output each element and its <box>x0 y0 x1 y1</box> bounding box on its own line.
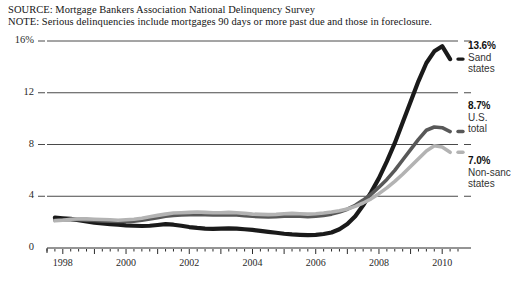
line-chart-plot <box>0 0 530 293</box>
callout-name-line1: U.S. <box>468 112 490 124</box>
y-tick-label: 8 <box>0 138 34 149</box>
callout-value: 13.6% <box>468 40 496 52</box>
callout-name-line2: states <box>468 178 511 190</box>
y-tick-label: 0 <box>0 241 34 252</box>
x-tick-label: 2006 <box>296 257 336 268</box>
x-tick-label: 1998 <box>43 257 83 268</box>
series-callout-sand-states: 13.6% Sand states <box>468 40 496 75</box>
x-tick-label: 2002 <box>169 257 209 268</box>
callout-name-line2: total <box>468 123 490 135</box>
series-callout-us-total: 8.7% U.S. total <box>468 100 490 135</box>
callout-value: 7.0% <box>468 155 511 167</box>
x-tick-label: 2010 <box>422 257 462 268</box>
series-line-sand-states <box>55 46 450 235</box>
callout-value: 8.7% <box>468 100 490 112</box>
series-line-u-s-total <box>55 127 450 221</box>
y-tick-label: 12 <box>0 86 34 97</box>
series-callout-non-sand-states: 7.0% Non-sanc states <box>468 155 511 190</box>
x-tick-label: 2008 <box>359 257 399 268</box>
x-tick-label: 2000 <box>106 257 146 268</box>
y-tick-label: 4 <box>0 189 34 200</box>
x-tick-label: 2004 <box>233 257 273 268</box>
callout-name-line1: Non-sanc <box>468 167 511 179</box>
y-tick-label: 16% <box>0 34 34 45</box>
callout-name-line1: Sand <box>468 52 496 64</box>
callout-name-line2: states <box>468 63 496 75</box>
chart-figure: SOURCE: Mortgage Bankers Association Nat… <box>0 0 530 293</box>
